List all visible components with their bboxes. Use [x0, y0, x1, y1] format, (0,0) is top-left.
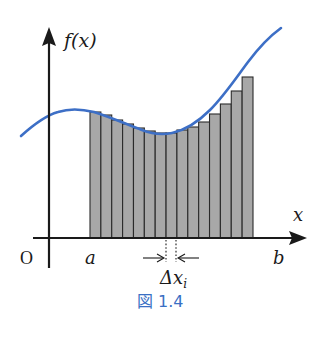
riemann-bar — [231, 91, 242, 238]
riemann-bar — [144, 131, 155, 238]
riemann-sum-diagram: f(x) x O a b Δxi 図 1.4 — [0, 0, 325, 347]
origin-label: O — [20, 248, 33, 268]
riemann-bar — [133, 128, 144, 238]
delta-x-main: Δx — [159, 267, 183, 288]
riemann-bar — [220, 104, 231, 238]
b-label: b — [273, 247, 285, 268]
riemann-bar — [177, 130, 188, 238]
x-axis-label: x — [293, 204, 303, 225]
riemann-bar — [199, 122, 210, 238]
a-label: a — [85, 247, 96, 268]
y-axis-label: f(x) — [62, 29, 97, 51]
riemann-bar — [242, 77, 253, 238]
riemann-bar — [123, 124, 134, 238]
riemann-bar — [188, 127, 199, 238]
riemann-bar — [155, 133, 166, 238]
figure-caption: 図 1.4 — [137, 292, 184, 311]
riemann-bar — [112, 120, 123, 238]
delta-x-subscript: i — [183, 277, 187, 291]
riemann-bars — [90, 77, 253, 238]
delta-x-marker — [143, 240, 199, 262]
riemann-bar — [101, 115, 112, 238]
y-axis — [42, 27, 56, 268]
riemann-bar — [210, 114, 221, 238]
delta-x-label: Δxi — [159, 267, 187, 291]
riemann-bar — [90, 112, 101, 238]
riemann-bar — [166, 133, 177, 238]
